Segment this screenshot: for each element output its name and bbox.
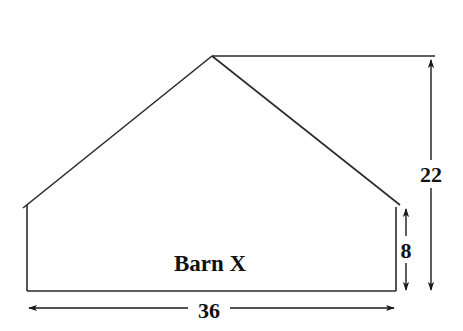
- barn-title: Barn X: [174, 251, 247, 276]
- wall-height-label: 8: [401, 238, 412, 263]
- wall-height-dimension: 8: [401, 209, 412, 290]
- barn-diagram: 22 8 36 Barn X: [0, 0, 463, 331]
- total-height-dimension: 22: [420, 60, 442, 290]
- width-dimension: 36: [29, 298, 394, 323]
- width-label: 36: [198, 298, 220, 323]
- total-height-label: 22: [420, 162, 442, 187]
